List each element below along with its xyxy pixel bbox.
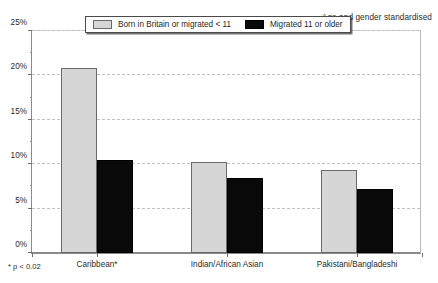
x-axis-tick [97,253,98,257]
y-axis-label: 20% [11,62,27,71]
chart-footnote: * p < 0.02 [8,262,41,271]
legend-swatch-icon [93,20,112,29]
bar [191,162,227,253]
legend-entry: Migrated 11 or older [245,20,343,29]
legend-label: Born in Britain or migrated < 11 [118,20,231,29]
legend-swatch-icon [245,20,264,29]
bar [321,170,357,253]
x-axis-tick [32,253,33,257]
y-axis-label: 15% [11,106,27,115]
y-axis-label: 10% [11,151,27,160]
chart-legend: Born in Britain or migrated < 11Migrated… [85,16,351,33]
x-axis-tick [227,253,228,257]
y-axis-label: 25% [11,18,27,27]
bar [357,189,393,253]
x-axis-label: Caribbean* [77,260,118,269]
plot-area: 0%5%10%15%20%25% Caribbean*Indian/Africa… [31,30,421,254]
x-axis-tick [357,253,358,257]
legend-label: Migrated 11 or older [270,20,343,29]
legend-entry: Born in Britain or migrated < 11 [93,20,231,29]
chart-figure: Age and gender standardised 0%5%10%15%20… [0,0,438,283]
bar [227,178,263,253]
bar [61,68,97,253]
x-axis-label: Indian/African Asian [191,260,263,269]
x-axis-tick [422,253,423,257]
y-axis-label: 0% [15,240,27,249]
bars-layer [32,31,420,253]
x-axis-label: Pakistani/Bangladeshi [317,260,398,269]
bar [97,160,133,253]
y-axis-label: 5% [15,195,27,204]
